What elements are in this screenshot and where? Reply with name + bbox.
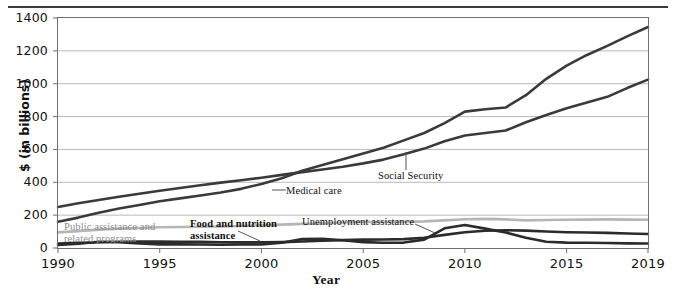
chart-figure: $ (in billions) Year 0200400600800100012… bbox=[0, 0, 674, 296]
y-tick-label: 1400 bbox=[4, 10, 48, 25]
annotation-social-security: Social Security bbox=[378, 170, 443, 182]
series-line-social-security bbox=[58, 80, 648, 207]
x-tick-label: 2019 bbox=[618, 256, 674, 271]
y-tick-label: 0 bbox=[4, 240, 48, 255]
y-tick-label: 600 bbox=[4, 141, 48, 156]
y-tick-label: 400 bbox=[4, 174, 48, 189]
line-chart-plot bbox=[0, 0, 674, 296]
annotation-medical-care: Medical care bbox=[286, 185, 342, 197]
y-tick-label: 1200 bbox=[4, 43, 48, 58]
y-tick-label: 800 bbox=[4, 109, 48, 124]
leader-line bbox=[415, 224, 435, 233]
data-series-group bbox=[58, 27, 648, 245]
x-tick-label: 2015 bbox=[537, 256, 597, 271]
x-tick-label: 2000 bbox=[231, 256, 291, 271]
annotation-food-nutrition: Food and nutrition assistance bbox=[190, 218, 277, 241]
annotation-public-assistance: Public assistance and related programs bbox=[64, 221, 155, 244]
x-tick-label: 2005 bbox=[333, 256, 393, 271]
gridlines bbox=[58, 51, 648, 215]
x-tick-label: 1995 bbox=[130, 256, 190, 271]
x-tick-label: 2010 bbox=[435, 256, 495, 271]
plot-frame-border bbox=[58, 18, 649, 249]
y-tick-label: 200 bbox=[4, 207, 48, 222]
annotation-unemployment: Unemployment assistance bbox=[302, 216, 414, 228]
y-tick-label: 1000 bbox=[4, 76, 48, 91]
x-tick-label: 1990 bbox=[28, 256, 88, 271]
